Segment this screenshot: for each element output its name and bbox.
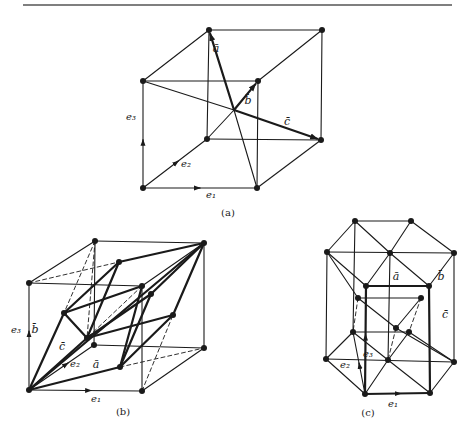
vector-label: c̄ <box>284 115 291 128</box>
edge-line <box>29 390 142 391</box>
figure-b-rhombohedral-cell: b̄c̄āe₁e₂e₃(b) <box>11 238 207 417</box>
hidden-edge-dashed <box>64 241 95 313</box>
edge-line <box>366 253 390 286</box>
lattice-point <box>139 388 145 394</box>
edge-line <box>388 332 409 360</box>
lattice-point <box>26 387 32 393</box>
edge-line <box>411 221 454 253</box>
edge-line <box>207 139 321 140</box>
edge-line <box>143 139 207 188</box>
unit-vector-label: e₁ <box>206 189 216 200</box>
unit-vector-label: e₁ <box>91 393 101 404</box>
unit-vector-label: e₃ <box>11 324 21 335</box>
edge-line <box>430 362 454 393</box>
lattice-point <box>418 295 424 301</box>
edge-line <box>207 110 234 139</box>
edge-line <box>258 30 322 81</box>
unit-vector-arrow <box>176 161 178 163</box>
vector-label: ā <box>393 270 400 283</box>
edge-line <box>142 348 204 391</box>
cell-edge-bold <box>365 286 366 394</box>
cell-edge-bold <box>64 262 119 313</box>
unit-vector-arrow <box>66 363 68 365</box>
figure-a-cubic-cell: āb̄c̄e₁e₂e₃(a) <box>126 27 325 218</box>
lattice-point <box>406 329 412 335</box>
edge-line <box>365 360 388 394</box>
lattice-point <box>92 238 98 244</box>
unit-vector-label: e₃ <box>363 348 373 359</box>
lattice-point <box>323 356 329 362</box>
lattice-point <box>350 329 356 335</box>
lattice-point <box>393 325 399 331</box>
lattice-point <box>140 78 146 84</box>
lattice-point <box>318 137 324 143</box>
edge-line <box>358 298 396 328</box>
lattice-point <box>355 295 361 301</box>
unit-vector-label: e₁ <box>388 398 398 409</box>
vector-label: b̄ <box>437 270 444 283</box>
lattice-point <box>148 291 154 297</box>
edge-line <box>94 345 204 348</box>
edge-line <box>29 283 142 286</box>
hidden-edge-dashed <box>120 348 204 367</box>
figure-c-hexagonal-cell: āb̄c̄e₁e₂e₃(c) <box>323 218 457 418</box>
vector-label: b̄ <box>31 323 38 336</box>
cell-edge-bold <box>429 286 430 393</box>
vector-label: ā <box>213 42 220 55</box>
edge-line <box>321 30 322 140</box>
figure-caption: (c) <box>361 407 375 418</box>
lattice-point <box>91 342 97 348</box>
vector-label: ā <box>93 358 100 371</box>
unit-vector-label: e₂ <box>70 358 80 369</box>
lattice-point <box>362 391 368 397</box>
lattice-point <box>139 283 145 289</box>
edge-line <box>234 110 257 188</box>
edge-line <box>29 241 95 283</box>
edge-line <box>390 221 411 253</box>
lattice-vector-arrow <box>234 110 317 139</box>
cell-edge-bold <box>151 243 204 294</box>
vector-label: b̄ <box>244 94 251 107</box>
edge-line <box>143 81 234 110</box>
edge-line <box>396 328 454 362</box>
lattice-point <box>352 218 358 224</box>
lattice-point <box>26 280 32 286</box>
edge-line <box>396 298 421 328</box>
edge-line <box>143 30 209 81</box>
lattice-figure: āb̄c̄e₁e₂e₃(a) b̄c̄āe₁e₂e₃(b) āb̄c̄e₁e₂e… <box>0 0 476 435</box>
edge-line <box>95 241 204 243</box>
hidden-edge-dashed <box>409 298 421 332</box>
lattice-point <box>363 283 369 289</box>
edge-line <box>327 221 355 252</box>
edge-line <box>207 30 209 139</box>
lattice-point <box>170 312 176 318</box>
unit-vector-label: e₂ <box>181 158 191 169</box>
vector-label: c̄ <box>442 308 449 321</box>
lattice-point <box>427 390 433 396</box>
unit-vector-label: e₂ <box>340 359 350 370</box>
unit-vector-label: e₃ <box>126 111 136 122</box>
lattice-point <box>319 27 325 33</box>
vector-label: c̄ <box>59 340 66 353</box>
lattice-point <box>451 359 457 365</box>
lattice-point <box>201 345 207 351</box>
lattice-point <box>61 310 67 316</box>
edge-line <box>388 253 390 360</box>
lattice-point <box>385 357 391 363</box>
lattice-point <box>324 249 330 255</box>
unit-vector-arrow <box>359 363 360 366</box>
figure-caption: (a) <box>221 207 235 218</box>
hidden-edge-dashed <box>29 262 119 283</box>
edge-line <box>388 360 430 393</box>
edge-line <box>326 252 327 359</box>
lattice-point <box>201 240 207 246</box>
figure-caption: (b) <box>116 406 130 417</box>
lattice-point <box>408 218 414 224</box>
edge-line <box>257 140 321 188</box>
lattice-point <box>255 78 261 84</box>
edge-line <box>355 221 390 253</box>
lattice-point <box>426 283 432 289</box>
lattice-point <box>84 335 90 341</box>
edge-line <box>326 332 353 359</box>
edge-line <box>257 81 258 188</box>
